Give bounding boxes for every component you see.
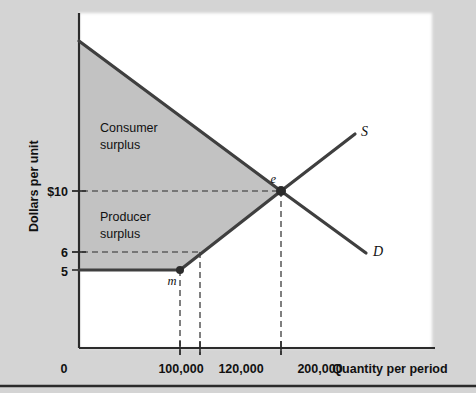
y-tick-label-6: 6 bbox=[61, 246, 68, 260]
x-tick-label-100000: 100,000 bbox=[158, 362, 203, 376]
producer-surplus-label-line2: surplus bbox=[100, 227, 140, 241]
economics-supply-demand-figure: Dollars per unit $10 6 5 0 100,000 120,0… bbox=[0, 0, 476, 393]
equilibrium-point-marker bbox=[276, 186, 286, 196]
y-tick-label-10: $10 bbox=[47, 185, 68, 199]
supply-curve-label: S bbox=[361, 124, 368, 139]
consumer-surplus-label-line1: Consumer bbox=[100, 121, 158, 135]
x-axis-title: Quantity per period bbox=[332, 362, 447, 376]
equilibrium-point-label: e bbox=[270, 172, 276, 186]
consumer-surplus-label-line2: surplus bbox=[100, 138, 140, 152]
kink-point-marker bbox=[176, 266, 184, 274]
producer-surplus-label-line1: Producer bbox=[100, 210, 151, 224]
x-tick-label-120000: 120,000 bbox=[218, 362, 263, 376]
demand-curve-label: D bbox=[372, 244, 383, 259]
y-axis-title: Dollars per unit bbox=[27, 139, 41, 232]
y-tick-label-5: 5 bbox=[61, 265, 68, 279]
kink-point-label: m bbox=[167, 274, 176, 288]
x-tick-label-0: 0 bbox=[61, 362, 68, 376]
